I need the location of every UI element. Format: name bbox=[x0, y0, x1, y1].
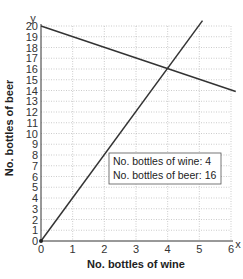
x-tick-label: 6 bbox=[228, 243, 234, 255]
y-tick-label: 1 bbox=[32, 224, 38, 236]
x-tick-label: 2 bbox=[101, 243, 107, 255]
y-tick-label: 3 bbox=[32, 203, 38, 215]
y-tick-label: 12 bbox=[26, 106, 38, 118]
y-tick-label: 17 bbox=[26, 52, 38, 64]
y-tick-label: 4 bbox=[32, 192, 38, 204]
y-axis-label: No. bottles of beer bbox=[3, 79, 15, 176]
y-tick-label: 19 bbox=[26, 31, 38, 43]
y-tick-label: 9 bbox=[32, 138, 38, 150]
x-tick-label: 1 bbox=[70, 243, 76, 255]
y-tick-label: 8 bbox=[32, 149, 38, 161]
y-tick-labels: 01234567891011121314151617181920 bbox=[26, 20, 38, 247]
y-axis-letter: y bbox=[30, 12, 36, 24]
y-tick-label: 7 bbox=[32, 160, 38, 172]
x-tick-label: 0 bbox=[38, 243, 44, 255]
x-tick-label: 4 bbox=[165, 243, 171, 255]
y-tick-label: 5 bbox=[32, 181, 38, 193]
y-tick-label: 10 bbox=[26, 128, 38, 140]
annotation-line-beer: No. bottles of beer: 16 bbox=[113, 169, 216, 181]
x-axis-label: No. bottles of wine bbox=[87, 258, 185, 270]
series-line-1 bbox=[41, 26, 236, 92]
y-tick-label: 18 bbox=[26, 42, 38, 54]
annotation-line-wine: No. bottles of wine: 4 bbox=[113, 155, 211, 167]
x-tick-label: 3 bbox=[133, 243, 139, 255]
annotation-box: No. bottles of wine: 4 No. bottles of be… bbox=[109, 153, 221, 184]
x-tick-label: 5 bbox=[196, 243, 202, 255]
x-axis-letter: x bbox=[235, 238, 241, 250]
line-chart: 01234567891011121314151617181920 0123456… bbox=[0, 0, 243, 279]
y-tick-label: 16 bbox=[26, 63, 38, 75]
data-lines bbox=[39, 21, 236, 243]
origin-point bbox=[39, 239, 43, 243]
y-tick-label: 13 bbox=[26, 95, 38, 107]
y-tick-label: 2 bbox=[32, 214, 38, 226]
y-tick-label: 15 bbox=[26, 74, 38, 86]
x-tick-labels: 0123456 bbox=[38, 243, 234, 255]
y-tick-label: 6 bbox=[32, 171, 38, 183]
y-tick-label: 11 bbox=[27, 117, 38, 129]
y-tick-label: 14 bbox=[26, 85, 38, 97]
